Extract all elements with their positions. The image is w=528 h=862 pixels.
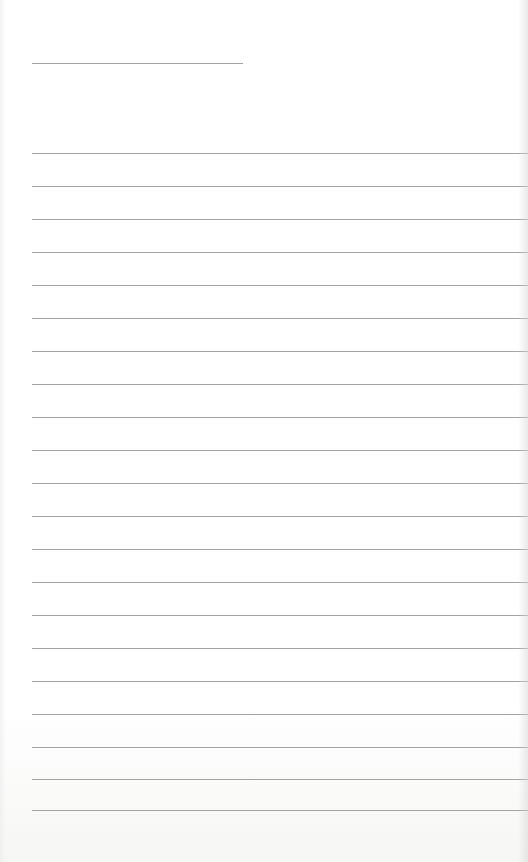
rule-line [32, 516, 528, 517]
rule-line [32, 318, 528, 319]
rule-line [32, 483, 528, 484]
rule-line [32, 219, 528, 220]
rule-line [32, 351, 528, 352]
rule-line [32, 648, 528, 649]
rule-line [32, 779, 528, 780]
rule-line [32, 153, 528, 154]
rule-line [32, 549, 528, 550]
rule-line [32, 252, 528, 253]
rule-line [32, 417, 528, 418]
rule-line [32, 714, 528, 715]
rule-line [32, 285, 528, 286]
rule-line [32, 615, 528, 616]
rule-line [32, 810, 528, 811]
lined-paper-page [0, 0, 528, 862]
rule-line [32, 450, 528, 451]
rule-line [32, 582, 528, 583]
rule-line [32, 186, 528, 187]
page-edge-shadow [518, 0, 528, 862]
title-underline [32, 63, 243, 64]
rule-line [32, 681, 528, 682]
page-left-edge [0, 0, 6, 862]
rule-line [32, 384, 528, 385]
rule-line [32, 747, 528, 748]
